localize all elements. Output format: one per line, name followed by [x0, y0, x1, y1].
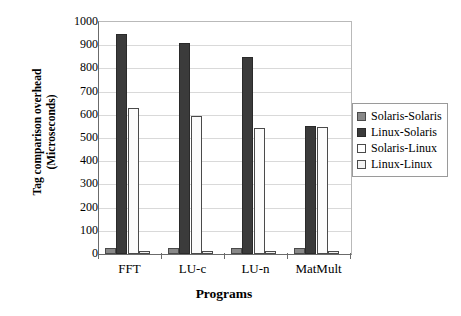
- x-axis-tick-mark: [224, 253, 225, 259]
- legend-item: Solaris-Linux: [357, 140, 442, 156]
- bar: [294, 248, 305, 254]
- x-axis-tick-mark: [161, 253, 162, 259]
- bar-chart: Tag comparison overhead (Microseconds) 0…: [0, 0, 461, 316]
- bar: [254, 128, 265, 254]
- x-axis-tick-mark: [350, 253, 351, 259]
- y-axis-title-line1: Tag comparison overhead: [30, 22, 44, 242]
- y-axis-tick-label: 400: [54, 154, 98, 166]
- x-axis-category-label: LU-n: [224, 261, 287, 276]
- y-axis-tick-label: 700: [54, 85, 98, 97]
- bar: [265, 251, 276, 254]
- y-axis-tick-label: 0: [54, 247, 98, 259]
- y-axis-tick-label: 1000: [54, 15, 98, 27]
- bar-group: [99, 22, 162, 254]
- legend-item-label: Linux-Linux: [371, 158, 432, 171]
- plot-area: [98, 21, 352, 255]
- legend-swatch-icon: [357, 160, 366, 169]
- legend-item-label: Solaris-Linux: [371, 142, 437, 155]
- legend-swatch-icon: [357, 144, 366, 153]
- legend-item: Solaris-Solaris: [357, 108, 442, 124]
- legend: Solaris-SolarisLinux-SolarisSolaris-Linu…: [352, 103, 448, 177]
- bar: [317, 127, 328, 254]
- legend-item-label: Linux-Solaris: [371, 126, 437, 139]
- bar-group: [162, 22, 225, 254]
- bar: [179, 43, 190, 254]
- bar: [191, 116, 202, 254]
- y-axis-tick-label: 300: [54, 177, 98, 189]
- y-axis-tick-label: 800: [54, 61, 98, 73]
- y-axis-ticks: 01002003004005006007008009001000: [46, 21, 98, 253]
- bar: [168, 248, 179, 254]
- y-axis-tick-label: 600: [54, 108, 98, 120]
- x-axis-category-label: FFT: [98, 261, 161, 276]
- bar-group: [225, 22, 288, 254]
- bar: [105, 248, 116, 254]
- legend-swatch-icon: [357, 112, 366, 121]
- y-axis-tick-label: 900: [54, 38, 98, 50]
- bar: [328, 251, 339, 254]
- bar: [202, 251, 213, 254]
- bar: [242, 57, 253, 254]
- bar: [128, 108, 139, 254]
- legend-item: Linux-Linux: [357, 156, 442, 172]
- bar: [305, 126, 316, 254]
- legend-item-label: Solaris-Solaris: [371, 110, 442, 123]
- y-axis-tick-label: 200: [54, 201, 98, 213]
- legend-swatch-icon: [357, 128, 366, 137]
- bar: [231, 248, 242, 254]
- y-axis-tick-label: 500: [54, 131, 98, 143]
- bar-group: [288, 22, 351, 254]
- x-axis-category-label: MatMult: [287, 261, 350, 276]
- y-axis-tick-label: 100: [54, 224, 98, 236]
- x-axis-title: Programs: [98, 286, 350, 302]
- x-axis-tick-mark: [287, 253, 288, 259]
- x-axis-category-label: LU-c: [161, 261, 224, 276]
- legend-item: Linux-Solaris: [357, 124, 442, 140]
- x-axis-tick-mark: [98, 253, 99, 259]
- bar: [116, 34, 127, 254]
- bar: [139, 251, 150, 254]
